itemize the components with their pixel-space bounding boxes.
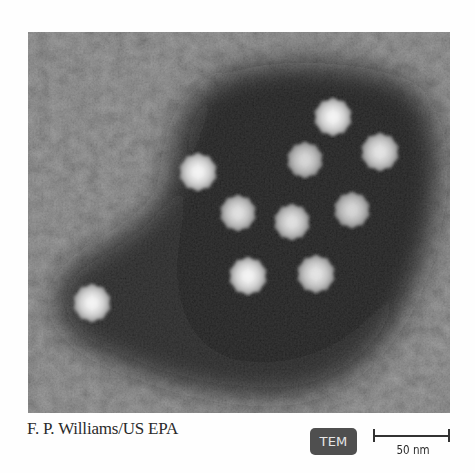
figure-page: F. P. Williams/US EPA TEM 50 nm [0, 0, 475, 473]
image-credit: F. P. Williams/US EPA [27, 419, 178, 439]
tem-micrograph [28, 32, 450, 413]
scale-bar-line [373, 435, 449, 437]
scale-bar: 50 nm [373, 429, 450, 459]
scale-bar-tick-right [448, 429, 450, 442]
microscopy-type-badge: TEM [310, 428, 357, 455]
micrograph-image [28, 32, 450, 413]
scale-bar-label: 50 nm [377, 443, 449, 457]
